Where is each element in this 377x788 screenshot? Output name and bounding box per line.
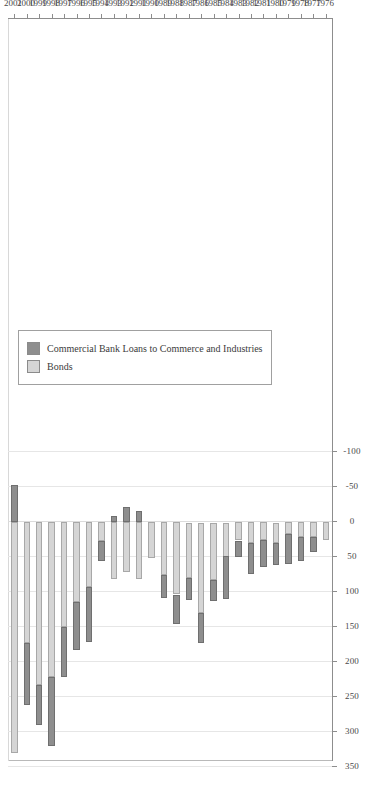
plot-area: 350300250200150100500-50-100 20012000199… — [0, 0, 377, 788]
bar-segment-bonds — [210, 523, 217, 580]
value-tick-label: -100 — [332, 446, 372, 456]
legend-item-bonds: Bonds — [27, 360, 263, 373]
bar-segment-loans — [36, 685, 43, 725]
category-tick — [151, 14, 152, 19]
gridline — [8, 661, 332, 662]
bar-segment-loans — [48, 677, 55, 746]
bar-segment-loans — [61, 627, 68, 677]
gridline — [8, 556, 332, 557]
bar-segment-loans — [123, 507, 130, 522]
bar-segment-bonds — [198, 523, 205, 613]
value-tick-label: 150 — [332, 621, 372, 631]
category-tick — [301, 14, 302, 19]
category-tick — [276, 14, 277, 19]
bar-segment-loans — [111, 516, 118, 522]
bar-segment-bonds — [298, 522, 305, 537]
legend-item-loans: Commercial Bank Loans to Commerce and In… — [27, 342, 263, 355]
category-tick — [251, 14, 252, 19]
category-tick — [14, 14, 15, 19]
bar-segment-bonds — [61, 522, 68, 627]
bar-segment-bonds — [111, 522, 118, 579]
legend-swatch-bonds — [27, 360, 40, 373]
bar-segment-bonds — [36, 522, 43, 685]
legend-label-bonds: Bonds — [47, 361, 73, 372]
category-tick — [101, 14, 102, 19]
bar-segment-loans — [173, 595, 180, 624]
bar-segment-loans — [11, 485, 18, 522]
bar-segment-bonds — [98, 522, 105, 541]
plot-top-border — [8, 19, 9, 761]
bar-segment-bonds — [86, 522, 93, 587]
category-tick — [164, 14, 165, 19]
category-tick — [126, 14, 127, 19]
category-tick-label: 1976 — [316, 0, 334, 8]
category-tick — [288, 14, 289, 19]
bar-segment-loans — [223, 556, 230, 599]
bar-segment-bonds — [123, 522, 130, 572]
bar-segment-bonds — [273, 523, 280, 543]
bar-segment-bonds — [223, 523, 230, 557]
category-tick — [114, 14, 115, 19]
gridline — [8, 731, 332, 732]
rotated-figure: 350300250200150100500-50-100 20012000199… — [0, 0, 377, 788]
category-tick — [326, 14, 327, 19]
category-tick — [226, 14, 227, 19]
bar-segment-loans — [136, 511, 143, 522]
category-tick — [176, 14, 177, 19]
category-tick — [214, 14, 215, 19]
bar-segment-bonds — [148, 522, 155, 558]
value-tick-label: 200 — [332, 656, 372, 666]
bar-segment-bonds — [136, 522, 143, 579]
category-axis-line — [8, 18, 333, 19]
gridline — [8, 486, 332, 487]
category-tick — [263, 14, 264, 19]
bar-segment-bonds — [11, 522, 18, 753]
category-tick — [39, 14, 40, 19]
bar-segment-loans — [260, 540, 267, 567]
plot-left-border — [8, 760, 332, 761]
bar-segment-loans — [273, 543, 280, 565]
gridline — [8, 696, 332, 697]
bar-segment-loans — [198, 613, 205, 643]
bar-segment-loans — [235, 541, 242, 557]
category-tick — [89, 14, 90, 19]
bar-segment-bonds — [48, 522, 55, 677]
legend-swatch-loans — [27, 342, 40, 355]
bar-segment-loans — [98, 541, 105, 561]
bar-segment-bonds — [73, 522, 80, 602]
bar-segment-loans — [285, 534, 292, 564]
category-tick — [27, 14, 28, 19]
bar-segment-bonds — [161, 522, 168, 575]
value-tick-label: 0 — [332, 516, 372, 526]
bar-segment-loans — [310, 537, 317, 552]
bar-segment-bonds — [310, 522, 317, 537]
value-tick-label: 350 — [332, 761, 372, 771]
legend-label-loans: Commercial Bank Loans to Commerce and In… — [47, 343, 263, 354]
gridline — [8, 766, 332, 767]
bar-segment-bonds — [260, 522, 267, 540]
bar-segment-bonds — [173, 522, 180, 594]
bar-segment-loans — [73, 602, 80, 650]
bar-segment-bonds — [235, 522, 242, 540]
bar-segment-loans — [186, 578, 193, 600]
bar-segment-loans — [24, 643, 31, 705]
value-tick-label: -50 — [332, 481, 372, 491]
bar-segment-bonds — [285, 522, 292, 534]
category-tick — [52, 14, 53, 19]
bar-segment-loans — [86, 587, 93, 642]
chart-canvas: 350300250200150100500-50-100 20012000199… — [0, 0, 377, 788]
legend-box: Commercial Bank Loans to Commerce and In… — [18, 330, 272, 385]
value-tick-label: 100 — [332, 586, 372, 596]
value-tick-label: 50 — [332, 551, 372, 561]
category-tick — [239, 14, 240, 19]
bar-segment-loans — [248, 543, 255, 574]
bar-segment-bonds — [186, 523, 193, 578]
category-tick — [313, 14, 314, 19]
bar-segment-bonds — [248, 522, 255, 543]
gridline — [8, 626, 332, 627]
bar-segment-bonds — [24, 522, 31, 643]
category-tick — [189, 14, 190, 19]
bar-segment-bonds — [323, 522, 330, 540]
value-axis-line — [332, 19, 333, 761]
bar-segment-loans — [161, 575, 168, 598]
